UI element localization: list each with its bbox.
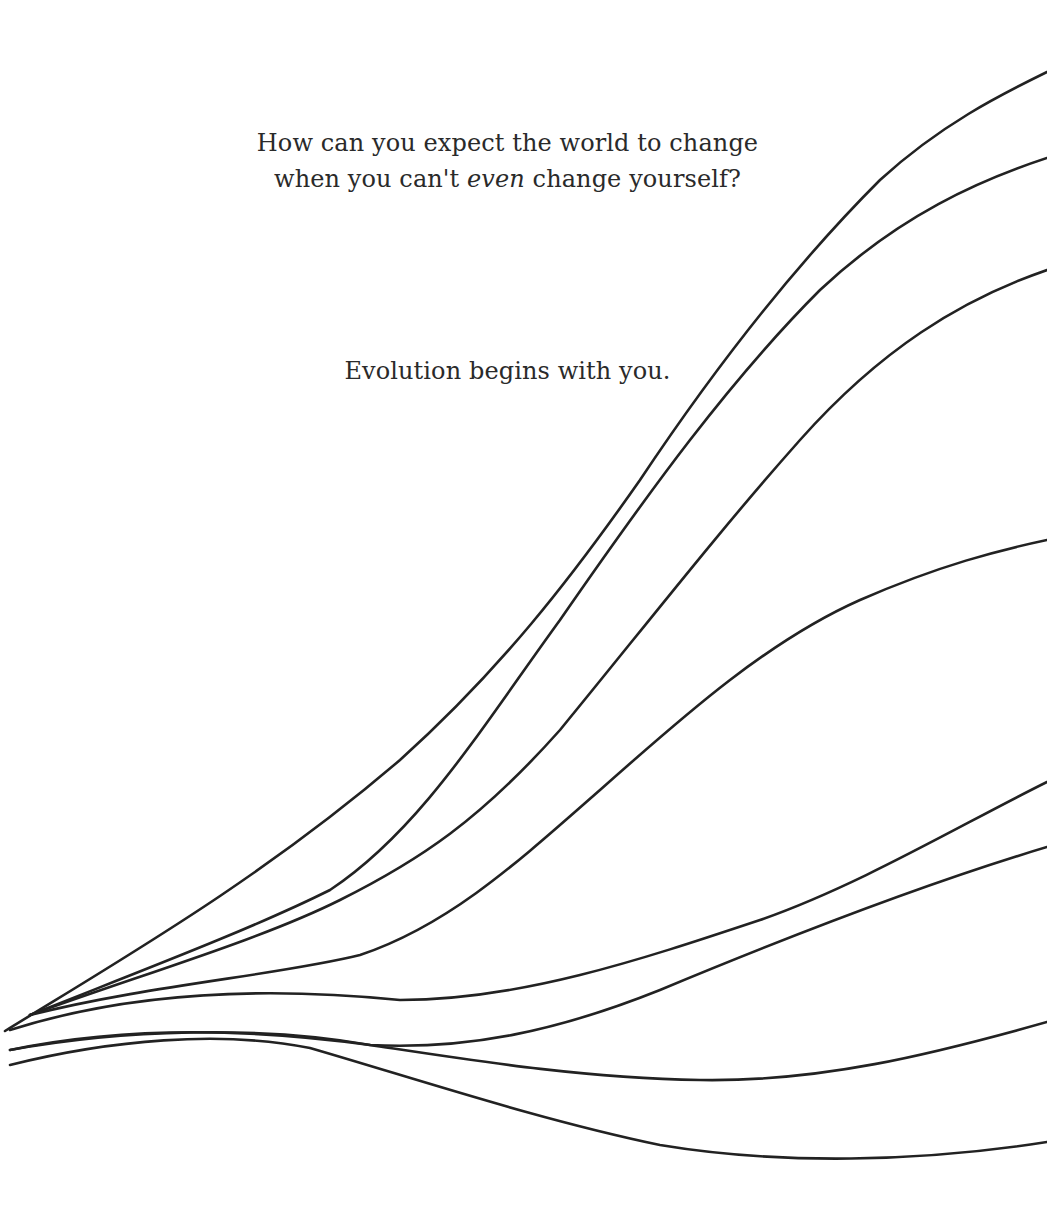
branching-lines-illustration <box>0 0 1047 1222</box>
branch-line-5 <box>10 782 1047 1030</box>
branch-line-8 <box>10 1039 1047 1159</box>
branch-line-1 <box>5 72 1047 1031</box>
branch-line-3 <box>30 270 1047 1015</box>
branch-line-6 <box>10 847 1047 1050</box>
branch-line-4 <box>30 540 1047 1015</box>
